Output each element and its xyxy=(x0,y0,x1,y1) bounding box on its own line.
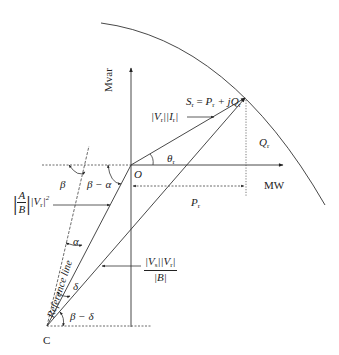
mvar-text: Mvar xyxy=(102,68,114,92)
center-label: C xyxy=(43,335,50,346)
vr-ir-label: |Vr||Ir| xyxy=(151,111,178,124)
origin-text: O xyxy=(134,168,142,180)
theta-arc xyxy=(150,154,153,165)
qr-label: Qr xyxy=(259,137,269,150)
mw-text: MW xyxy=(264,179,284,191)
center-text: C xyxy=(43,334,50,346)
vs-vr-over-b-label: |Vs||Vr||B| xyxy=(144,256,177,283)
apparent-power-label: Sr = Pr + jQr xyxy=(186,96,241,109)
power-circle-diagram: Mvar MW O C Sr = Pr + jQr |Vr||Ir| Qr Pr… xyxy=(0,0,339,355)
beta-minus-alpha-label: β − α xyxy=(87,179,111,190)
beta-minus-delta-label: β − δ xyxy=(70,311,94,322)
beta-label: β xyxy=(60,179,65,190)
mvar-axis-label: Mvar xyxy=(103,68,114,92)
beta-minus-delta-arc xyxy=(60,312,64,326)
mw-axis-label: MW xyxy=(264,180,284,191)
alpha-label: α xyxy=(73,236,79,247)
ab-vr-squared-label: |AB||Vr|2 xyxy=(13,190,49,215)
pr-label: Pr xyxy=(191,197,200,210)
delta-label: δ xyxy=(73,281,78,292)
origin-label: O xyxy=(134,169,142,180)
theta-label: θr xyxy=(167,153,175,166)
